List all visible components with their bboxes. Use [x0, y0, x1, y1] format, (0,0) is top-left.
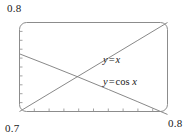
identity-rhs: x	[116, 54, 121, 65]
series-label-cosine: y=cos x	[103, 76, 137, 87]
series-label-identity: y=x	[103, 54, 120, 65]
chart-figure: 0.8 0.7 0.8 y=x y=cos x	[0, 0, 192, 139]
cosine-equals: =	[108, 76, 116, 87]
curves-group	[20, 23, 168, 115]
identity-lhs: y	[103, 54, 108, 65]
cosine-rhs: x	[132, 76, 137, 87]
cosine-lhs: y	[103, 76, 108, 87]
curve-identity	[20, 23, 168, 112]
identity-equals: =	[108, 54, 116, 65]
plot-area	[0, 0, 192, 139]
cosine-function-name: cos	[116, 76, 130, 87]
curve-cosine	[20, 54, 168, 115]
